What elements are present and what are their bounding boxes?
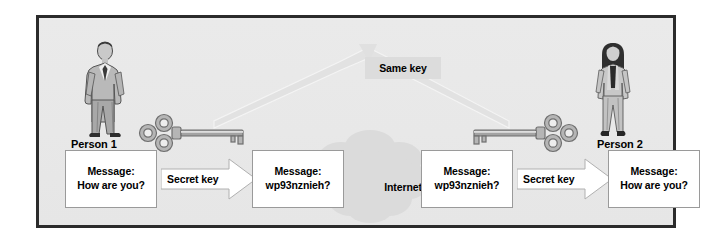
diagram-frame: Person 1: [36, 15, 676, 228]
plaintext-out-line2: How are you?: [77, 179, 145, 193]
internet-text: Internet: [384, 181, 422, 193]
message-box-plaintext-in: Message: How are you?: [608, 150, 700, 208]
plaintext-in-line2: How are you?: [620, 179, 688, 193]
message-box-ciphertext-out: Message: wp93nznieh?: [252, 150, 344, 208]
person-2-label: Person 2: [597, 138, 643, 150]
skeleton-key-icon-left: [134, 111, 256, 155]
diagram-canvas: Person 1: [0, 0, 706, 243]
ciphertext-in-line1: Message:: [443, 165, 490, 177]
woman-in-suit-icon: [585, 40, 641, 142]
person-1-label: Person 1: [71, 138, 117, 150]
same-key-label: Same key: [365, 57, 441, 79]
ciphertext-out-line1: Message:: [274, 165, 321, 177]
same-key-text: Same key: [379, 62, 427, 74]
encrypt-arrow: Secret key: [161, 158, 257, 200]
skeleton-key-icon-right: [461, 111, 583, 155]
ciphertext-in-line2: wp93nznieh?: [435, 179, 500, 193]
message-box-plaintext-out: Message: How are you?: [65, 150, 157, 208]
ciphertext-out-line2: wp93nznieh?: [266, 179, 331, 193]
plaintext-out-line1: Message:: [87, 165, 134, 177]
decrypt-arrow: Secret key: [517, 158, 613, 200]
message-box-ciphertext-in: Message: wp93nznieh?: [421, 150, 513, 208]
plaintext-in-line1: Message:: [630, 165, 677, 177]
man-in-suit-icon: [77, 40, 133, 142]
